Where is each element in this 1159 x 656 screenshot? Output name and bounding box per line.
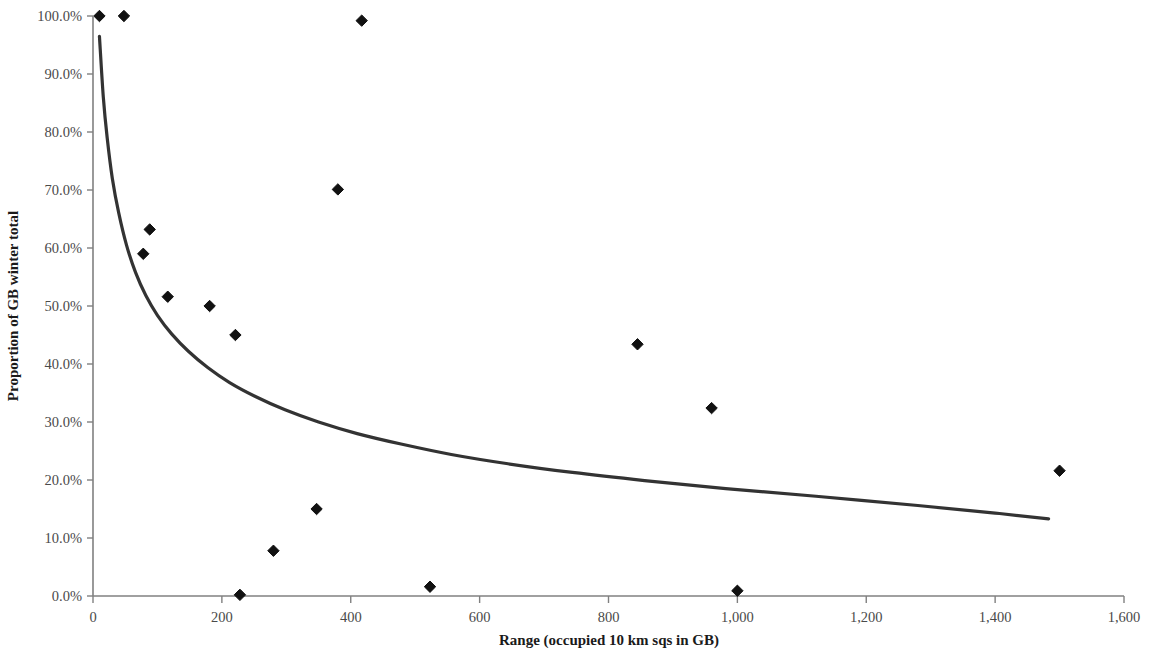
x-axis-group: 02004006008001,0001,2001,4001,600 bbox=[89, 596, 1140, 625]
x-tick-label: 400 bbox=[340, 609, 362, 625]
trendline bbox=[99, 36, 1048, 519]
y-axis-title: Proportion of GB winter total bbox=[5, 211, 21, 401]
y-tick-label: 0.0% bbox=[52, 588, 82, 604]
data-point bbox=[234, 589, 245, 600]
data-point bbox=[118, 10, 129, 21]
y-tick-label: 40.0% bbox=[45, 356, 82, 372]
data-point-series bbox=[94, 10, 1066, 600]
data-point bbox=[138, 248, 149, 259]
data-point bbox=[204, 300, 215, 311]
x-tick-label: 1,400 bbox=[979, 609, 1012, 625]
x-tick-label: 1,600 bbox=[1108, 609, 1141, 625]
y-tick-label: 90.0% bbox=[45, 66, 82, 82]
y-tick-label: 20.0% bbox=[45, 472, 82, 488]
data-point bbox=[424, 581, 435, 592]
data-point bbox=[732, 585, 743, 596]
data-point bbox=[356, 15, 367, 26]
x-axis-tick-labels: 02004006008001,0001,2001,4001,600 bbox=[89, 609, 1140, 625]
data-point bbox=[706, 402, 717, 413]
x-tick-label: 1,000 bbox=[721, 609, 754, 625]
x-tick-label: 1,200 bbox=[850, 609, 883, 625]
chart-canvas: 0.0%10.0%20.0%30.0%40.0%50.0%60.0%70.0%8… bbox=[0, 0, 1159, 656]
y-tick-label: 70.0% bbox=[45, 182, 82, 198]
y-axis-group: 0.0%10.0%20.0%30.0%40.0%50.0%60.0%70.0%8… bbox=[37, 8, 93, 604]
data-point bbox=[162, 291, 173, 302]
y-tick-label: 100.0% bbox=[37, 8, 82, 24]
data-point bbox=[268, 545, 279, 556]
data-point bbox=[144, 224, 155, 235]
y-tick-label: 80.0% bbox=[45, 124, 82, 140]
y-tick-label: 50.0% bbox=[45, 298, 82, 314]
data-point bbox=[94, 10, 105, 21]
y-tick-label: 60.0% bbox=[45, 240, 82, 256]
data-point bbox=[632, 339, 643, 350]
x-tick-label: 200 bbox=[211, 609, 233, 625]
y-axis-ticks bbox=[87, 16, 93, 596]
x-axis-title: Range (occupied 10 km sqs in GB) bbox=[499, 632, 719, 649]
x-tick-label: 600 bbox=[469, 609, 491, 625]
y-axis-tick-labels: 0.0%10.0%20.0%30.0%40.0%50.0%60.0%70.0%8… bbox=[37, 8, 82, 604]
data-point bbox=[332, 184, 343, 195]
y-tick-label: 10.0% bbox=[45, 530, 82, 546]
data-point bbox=[311, 503, 322, 514]
x-tick-label: 0 bbox=[89, 609, 96, 625]
data-point bbox=[1054, 465, 1065, 476]
scatter-chart: 0.0%10.0%20.0%30.0%40.0%50.0%60.0%70.0%8… bbox=[0, 0, 1159, 656]
x-tick-label: 800 bbox=[598, 609, 620, 625]
y-tick-label: 30.0% bbox=[45, 414, 82, 430]
data-point bbox=[230, 329, 241, 340]
x-axis-ticks bbox=[93, 596, 1124, 603]
